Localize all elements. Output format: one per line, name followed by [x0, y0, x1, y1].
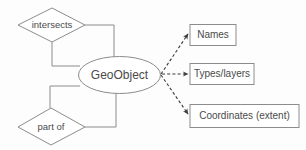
relationship-intersects-label: intersects: [32, 19, 73, 30]
connector-attribute-coordinates: [161, 75, 188, 114]
connector-attribute-names: [161, 34, 188, 74]
relationship-part-of-label: part of: [38, 121, 65, 132]
connector-intersects-right: [85, 25, 114, 58]
attribute-names-label: Names: [197, 29, 229, 40]
attribute-names[interactable]: Names: [190, 25, 236, 46]
relationship-intersects[interactable]: intersects: [18, 8, 85, 42]
relationship-part-of[interactable]: part of: [18, 108, 85, 145]
attribute-types-layers[interactable]: Types/layers: [190, 64, 254, 85]
entity-geoobject[interactable]: GeoObject: [79, 57, 161, 94]
diagram-svg: intersects part of GeoObject Names Types…: [0, 0, 306, 150]
diagram-canvas: intersects part of GeoObject Names Types…: [0, 0, 306, 150]
attribute-coordinates[interactable]: Coordinates (extent): [190, 105, 299, 128]
attribute-coordinates-label: Coordinates (extent): [199, 110, 290, 121]
connector-partof-right: [85, 93, 116, 127]
entity-geoobject-label: GeoObject: [91, 68, 149, 82]
connector-partof-top: [50, 86, 80, 108]
attribute-types-layers-label: Types/layers: [194, 68, 250, 79]
connector-intersects-bottom: [52, 42, 80, 66]
